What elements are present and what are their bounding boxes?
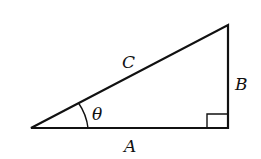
triangle-outline: [31, 25, 228, 128]
angle-arc: [79, 103, 89, 128]
label-hypotenuse-c: C: [122, 52, 135, 72]
right-triangle-diagram: C B A θ: [0, 0, 261, 159]
label-side-b: B: [234, 74, 248, 94]
label-side-a: A: [122, 136, 136, 156]
label-angle-theta: θ: [92, 104, 102, 124]
right-angle-marker: [207, 114, 228, 128]
